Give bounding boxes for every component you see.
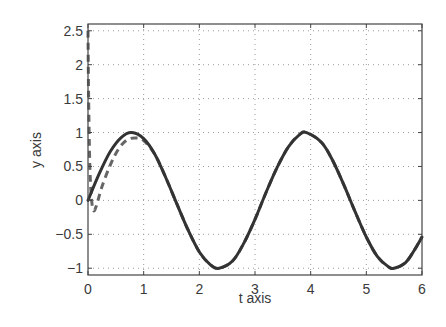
y-tick-labels: −1−0.500.511.522.5 — [55, 23, 83, 276]
x-tick-label: 4 — [307, 281, 315, 297]
y-tick-label: 2.5 — [64, 23, 84, 39]
x-tick-label: 2 — [195, 281, 203, 297]
y-tick-label: −0.5 — [55, 226, 83, 242]
x-tick-label: 0 — [84, 281, 92, 297]
x-tick-label: 6 — [418, 281, 426, 297]
y-axis-label: y axis — [28, 132, 44, 168]
y-tick-label: 1 — [75, 125, 83, 141]
line-chart: 0123456 −1−0.500.511.522.5 t axis y axis — [0, 0, 446, 327]
x-tick-label: 5 — [362, 281, 370, 297]
x-axis-label: t axis — [239, 290, 272, 306]
grid-lines — [88, 24, 422, 275]
y-tick-label: 1.5 — [64, 91, 84, 107]
y-tick-label: 0.5 — [64, 158, 84, 174]
y-tick-label: 2 — [75, 57, 83, 73]
y-tick-label: 0 — [75, 192, 83, 208]
y-tick-label: −1 — [67, 260, 83, 276]
x-tick-label: 1 — [140, 281, 148, 297]
